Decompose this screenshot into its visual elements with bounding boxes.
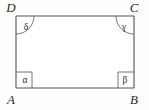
vertex-label-a: A [6, 92, 15, 107]
angle-label-alpha: α [23, 75, 28, 85]
rectangle-abcd-figure: δ γ α β D C A B [0, 0, 149, 110]
angle-label-beta: β [123, 75, 128, 85]
angle-label-gamma: γ [121, 22, 126, 32]
vertex-label-b: B [130, 92, 138, 107]
geometry-diagram-canvas: δ γ α β D C A B [0, 0, 149, 110]
vertex-label-d: D [5, 0, 16, 15]
vertex-label-c: C [130, 0, 139, 15]
rectangle-interior [16, 16, 134, 88]
angle-label-delta: δ [24, 22, 29, 32]
